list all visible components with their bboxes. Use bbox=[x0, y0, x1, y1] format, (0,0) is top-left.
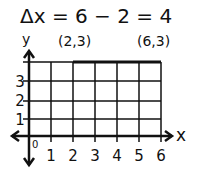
equation: Δx = 6 − 2 = 4 bbox=[20, 4, 172, 28]
x-axis-label: x bbox=[176, 125, 186, 145]
x-tick-2: 2 bbox=[68, 147, 78, 165]
y-tick-2: 2 bbox=[15, 92, 25, 110]
y-tick-1: 1 bbox=[15, 111, 25, 129]
y-tick-3: 3 bbox=[15, 73, 25, 91]
y-tick-labels: 1 2 3 bbox=[15, 73, 25, 129]
x-tick-4: 4 bbox=[112, 147, 122, 165]
x-tick-1: 1 bbox=[46, 147, 56, 165]
x-tick-5: 5 bbox=[134, 147, 144, 165]
point-label-2-3: (2,3) bbox=[58, 33, 91, 49]
x-tick-3: 3 bbox=[90, 147, 100, 165]
y-axis-label: y bbox=[22, 31, 30, 47]
x-tick-6: 6 bbox=[156, 147, 166, 165]
coordinate-diagram: Δx = 6 − 2 = 4 y (2,3) (6,3) x 0 1 2 3 4… bbox=[0, 0, 200, 173]
origin-label: 0 bbox=[32, 139, 38, 150]
grid bbox=[23, 62, 161, 142]
x-tick-labels: 1 2 3 4 5 6 bbox=[46, 147, 166, 165]
point-label-6-3: (6,3) bbox=[137, 33, 170, 49]
